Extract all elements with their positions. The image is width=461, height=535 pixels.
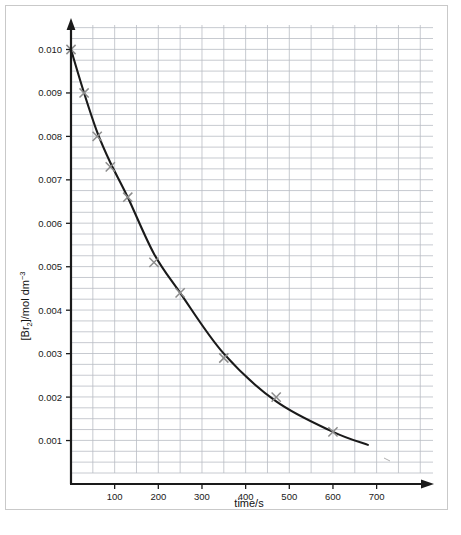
x-axis-tick-label: 700 bbox=[369, 491, 385, 502]
y-axis-tick-label: 0.002 bbox=[38, 392, 62, 403]
y-axis-title: [Br2]/mol dm−3 bbox=[18, 272, 34, 341]
y-axis-tick-label: 0.006 bbox=[38, 218, 62, 229]
figure-frame: 0.0010.0020.0030.0040.0050.0060.0070.008… bbox=[5, 5, 448, 510]
data-point-marker bbox=[123, 193, 132, 202]
y-axis-tick-label: 0.007 bbox=[38, 174, 62, 185]
grid-lines bbox=[71, 25, 433, 473]
x-axis-tick-label: 300 bbox=[194, 491, 210, 502]
x-axis-tick-label: 500 bbox=[281, 491, 297, 502]
x-axis-tick-label: 600 bbox=[325, 491, 341, 502]
y-axis-tick-label: 0.004 bbox=[38, 305, 62, 316]
y-axis-tick-label: 0.003 bbox=[38, 348, 62, 359]
y-axis-ticks: 0.0010.0020.0030.0040.0050.0060.0070.008… bbox=[38, 44, 71, 446]
y-axis-tick-label: 0.010 bbox=[38, 44, 62, 55]
page-root: 0.0010.0020.0030.0040.0050.0060.0070.008… bbox=[0, 0, 461, 535]
y-axis-tick-label: 0.001 bbox=[38, 435, 62, 446]
chart-canvas: 0.0010.0020.0030.0040.0050.0060.0070.008… bbox=[6, 6, 447, 509]
y-axis-title-superscript: −3 bbox=[18, 272, 27, 281]
x-axis-tick-label: 200 bbox=[150, 491, 166, 502]
stray-pencil-marks bbox=[384, 458, 390, 461]
axes bbox=[67, 18, 434, 489]
data-point-marker bbox=[149, 258, 158, 267]
y-axis-title-middle: ]/mol dm bbox=[19, 280, 31, 322]
fit-curve bbox=[71, 50, 368, 445]
y-axis-title-prefix: [Br bbox=[19, 326, 31, 340]
x-axis-arrow-icon bbox=[421, 479, 434, 488]
x-axis-tick-label: 100 bbox=[107, 491, 123, 502]
y-axis-arrow-icon bbox=[67, 18, 76, 30]
y-axis-tick-label: 0.009 bbox=[38, 87, 62, 98]
y-axis-tick-label: 0.008 bbox=[38, 131, 62, 142]
y-axis-tick-label: 0.005 bbox=[38, 261, 62, 272]
x-axis-title: time/s bbox=[234, 497, 264, 509]
